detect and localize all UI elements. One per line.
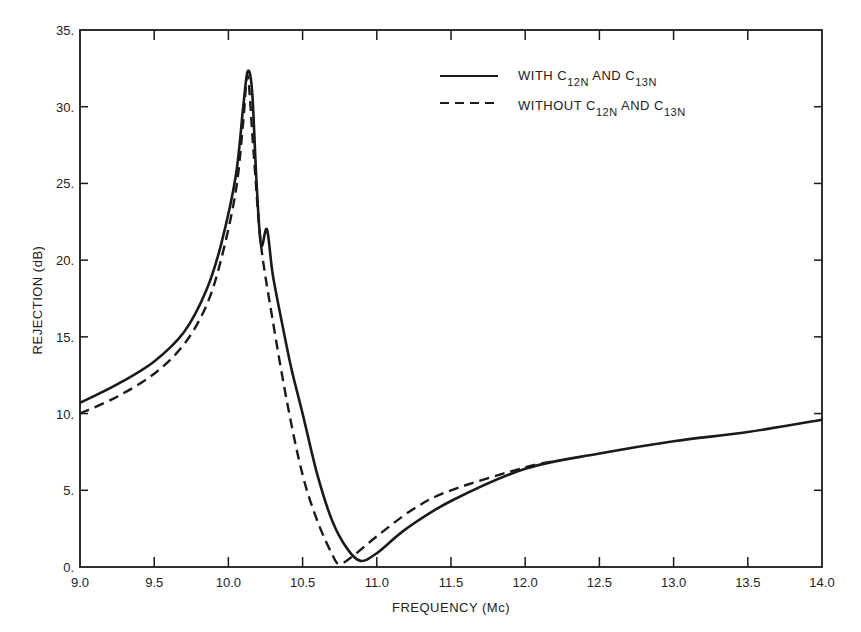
data-series [80, 71, 822, 564]
y-tick-label: 10. [56, 407, 74, 422]
y-tick-label: 0. [63, 560, 74, 575]
legend: WITH C12N AND C13N WITHOUT C12N AND C13N [440, 68, 686, 118]
x-tick-label: 11.0 [365, 575, 389, 590]
y-tick-label: 15. [56, 330, 74, 345]
x-tick-label: 13.0 [661, 575, 686, 590]
x-axis-title: FREQUENCY (Mc) [392, 600, 510, 615]
x-tick-label: 14.0 [809, 575, 834, 590]
y-tick-label: 25. [56, 176, 74, 191]
x-tick-label: 9.0 [71, 575, 89, 590]
legend-label-without: WITHOUT C12N AND C13N [518, 98, 686, 118]
y-axis-title: REJECTION (dB) [30, 246, 45, 355]
x-tick-label: 10.5 [290, 575, 315, 590]
y-tick-label: 5. [63, 483, 74, 498]
rejection-vs-frequency-chart: 9.09.510.010.511.011.512.012.513.013.514… [0, 0, 861, 632]
x-tick-label: 11.5 [439, 575, 463, 590]
plot-frame [80, 30, 822, 567]
x-tick-label: 12.5 [587, 575, 612, 590]
x-tick-label: 13.5 [735, 575, 760, 590]
x-tick-label: 9.5 [145, 575, 163, 590]
y-tick-label: 20. [56, 253, 74, 268]
y-axis-ticks: 0.5.10.15.20.25.30.35. [56, 23, 822, 575]
x-axis-ticks: 9.09.510.010.511.011.512.012.513.013.514… [71, 30, 835, 590]
series-with-c12n-c13n [80, 71, 822, 561]
x-tick-label: 12.0 [513, 575, 538, 590]
x-tick-label: 10.0 [216, 575, 241, 590]
legend-label-with: WITH C12N AND C13N [518, 68, 657, 88]
series-without-c12n-c13n [80, 75, 555, 563]
plot-border [80, 30, 822, 567]
y-tick-label: 35. [56, 23, 74, 38]
y-tick-label: 30. [56, 100, 74, 115]
